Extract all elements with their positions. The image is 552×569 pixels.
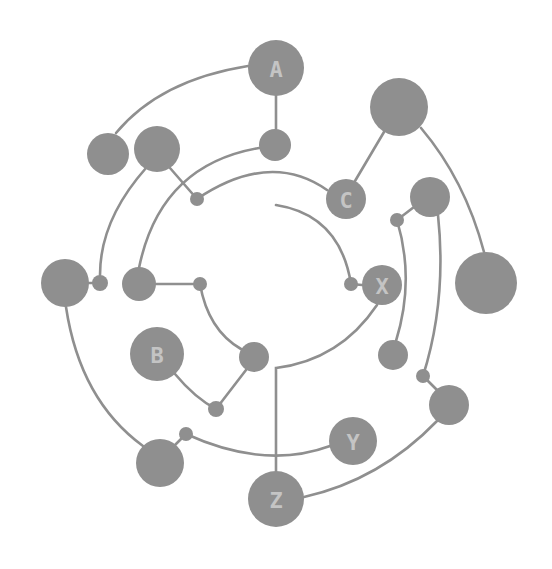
node-circle — [193, 277, 207, 291]
node-circle — [429, 385, 469, 425]
node-circle — [455, 252, 517, 314]
node-circle — [416, 369, 430, 383]
node-circle — [92, 275, 108, 291]
node-r_mid — [410, 177, 450, 217]
node-circle — [208, 401, 224, 417]
edge-dot_lm-c_mid — [200, 284, 241, 349]
node-circle — [41, 259, 89, 307]
node-dot_l — [92, 275, 108, 291]
edge-B-dot_b — [175, 374, 216, 409]
node-circle — [410, 177, 450, 217]
edge-left_big-bl_big — [66, 307, 143, 446]
node-dot_lm — [193, 277, 207, 291]
node-r_low — [378, 340, 408, 370]
node-dot_r — [390, 213, 404, 227]
node-tl2 — [134, 126, 180, 172]
edge-A-tl1 — [116, 66, 248, 133]
node-dot_b — [208, 401, 224, 417]
node-label: B — [150, 343, 163, 368]
node-circle — [259, 129, 291, 161]
node-dot_rl — [416, 369, 430, 383]
edge-dot_tl-C — [197, 172, 327, 199]
node-tl1 — [87, 133, 129, 175]
node-left_big — [41, 259, 89, 307]
nodes-layer: ACXBYZ — [41, 40, 517, 527]
node-label: Y — [346, 430, 360, 455]
edge-big_tr-C — [355, 132, 384, 181]
node-y: Y — [329, 417, 377, 465]
node-c_mid — [239, 342, 269, 372]
node-circle — [390, 213, 404, 227]
node-a: A — [248, 40, 304, 96]
node-dot_bl — [179, 427, 193, 441]
node-bl_big — [136, 439, 184, 487]
node-circle — [190, 192, 204, 206]
node-dot_tl — [190, 192, 204, 206]
node-label: A — [269, 57, 282, 82]
node-r_bot — [429, 385, 469, 425]
edge-r_mid-dot_rl — [423, 215, 440, 376]
node-circle — [134, 126, 180, 172]
node-circle — [378, 340, 408, 370]
node-circle — [136, 439, 184, 487]
network-diagram: ACXBYZ — [0, 0, 552, 569]
node-c: C — [326, 179, 366, 219]
node-a_small — [259, 129, 291, 161]
node-circle — [370, 78, 428, 136]
node-l_mid — [122, 267, 156, 301]
node-circle — [179, 427, 193, 441]
edge-tl2-dot_l — [100, 168, 146, 275]
node-label: X — [375, 274, 388, 299]
node-x: X — [362, 265, 402, 305]
node-dot_x — [344, 277, 358, 291]
node-label: C — [339, 188, 352, 213]
edge-dot_bl-Y — [186, 434, 330, 456]
node-circle — [239, 342, 269, 372]
node-z: Z — [248, 471, 304, 527]
node-b: B — [130, 327, 184, 381]
node-big_r — [455, 252, 517, 314]
node-circle — [344, 277, 358, 291]
node-label: Z — [269, 488, 282, 513]
node-circle — [122, 267, 156, 301]
node-circle — [87, 133, 129, 175]
node-big_tr — [370, 78, 428, 136]
